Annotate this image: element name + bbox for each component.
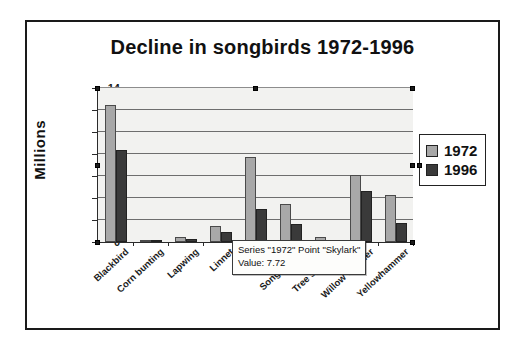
bar-1996-yellowhammer[interactable] — [396, 223, 407, 242]
selection-handle[interactable] — [410, 163, 415, 168]
gridline — [98, 175, 413, 176]
tooltip-series-point: Series "1972" Point "Skylark" — [238, 244, 360, 257]
bar-1996-blackbird[interactable] — [116, 150, 127, 242]
legend-label-1996: 1996 — [444, 161, 477, 178]
bar-1996-willow-warbler[interactable] — [361, 191, 372, 242]
legend-item-1996[interactable]: 1996 — [426, 161, 477, 178]
selection-handle[interactable] — [95, 163, 100, 168]
bar-1972-yellowhammer[interactable] — [385, 195, 396, 242]
selection-handle[interactable] — [95, 240, 100, 245]
legend-label-1972: 1972 — [444, 142, 477, 159]
y-axis-title: Millions — [31, 120, 48, 180]
gridline — [98, 131, 413, 132]
screenshot-root: Decline in songbirds 1972-1996 Millions … — [0, 0, 524, 343]
bar-1972-blackbird[interactable] — [105, 105, 116, 243]
legend-item-1972[interactable]: 1972 — [426, 142, 477, 159]
plot-area[interactable] — [97, 88, 413, 243]
x-axis-label-lapwing: Lapwing — [164, 246, 200, 280]
bar-1972-linnet[interactable] — [210, 226, 221, 243]
bar-1972-skylark[interactable] — [245, 157, 256, 242]
selection-handle[interactable] — [417, 163, 422, 168]
bar-1972-song-thrush[interactable] — [280, 204, 291, 243]
selection-handle[interactable] — [410, 86, 415, 91]
gridline — [98, 153, 413, 154]
bar-1996-skylark[interactable] — [256, 209, 267, 242]
bar-1972-willow-warbler[interactable] — [350, 175, 361, 242]
chart-title: Decline in songbirds 1972-1996 — [27, 36, 498, 59]
gridline — [98, 109, 413, 110]
legend-swatch-1972-icon — [426, 145, 438, 157]
selection-handle[interactable] — [253, 86, 258, 91]
chart-object[interactable]: Decline in songbirds 1972-1996 Millions … — [25, 20, 500, 330]
selection-handle[interactable] — [410, 240, 415, 245]
x-axis-label-linnet: Linnet — [207, 246, 235, 273]
legend-swatch-1996-icon — [426, 164, 438, 176]
bar-1996-linnet[interactable] — [221, 232, 232, 242]
datapoint-tooltip: Series "1972" Point "Skylark" Value: 7.7… — [232, 240, 366, 275]
chart-legend[interactable]: 1972 1996 — [419, 134, 486, 186]
selection-handle[interactable] — [95, 86, 100, 91]
tooltip-value: Value: 7.72 — [238, 257, 360, 270]
